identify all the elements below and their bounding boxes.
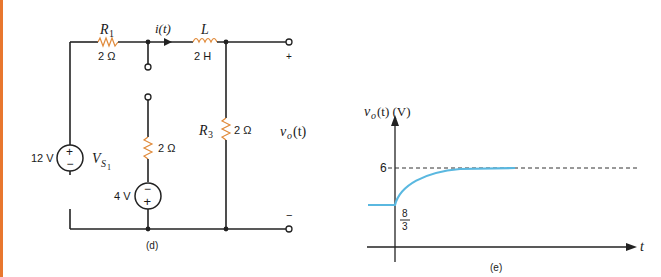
r1-sub: 1 (109, 28, 114, 39)
source-12v-value: 12 V (31, 152, 54, 164)
current-arrow-icon (164, 38, 172, 46)
source-4v-value: 4 V (114, 190, 131, 202)
current-label: i(t) (155, 21, 171, 36)
graph-final-value: 6 (380, 161, 387, 175)
resistor-middle-icon (144, 137, 152, 159)
graph-initial-num: 8 (402, 208, 408, 219)
r1-value: 2 Ω (98, 50, 115, 62)
output-v-sub: o (287, 130, 292, 141)
response-graph (367, 115, 638, 262)
vo-curve (368, 168, 515, 205)
switch-terminal-lower-icon (145, 94, 151, 100)
resistor-r1-icon (98, 38, 118, 46)
inductor-value: 2 H (194, 50, 211, 62)
output-plus-label: + (286, 51, 292, 62)
middle-resistor-value: 2 Ω (158, 142, 175, 154)
switch-terminal-upper-icon (145, 64, 151, 70)
r3-value: 2 Ω (234, 124, 251, 136)
source-12v-minus: − (67, 157, 74, 171)
inductor-icon (193, 39, 217, 43)
output-terminal-minus-icon (286, 226, 292, 232)
accent-bar (0, 0, 3, 277)
output-v: v (280, 124, 287, 139)
source-4v-plus: + (144, 194, 152, 209)
figure-canvas: − + + − 12 V V S 1 R 1 2 Ω i(t) L 2 H 2 … (0, 0, 661, 277)
circuit-caption: (d) (146, 240, 158, 251)
graph-ylabel-sub: o (371, 110, 376, 121)
graph-caption: (e) (490, 262, 502, 273)
output-terminal-plus-icon (286, 39, 292, 45)
r1-name: R (99, 22, 109, 37)
inductor-name: L (200, 22, 209, 37)
circuit-diagram: − + + − (57, 38, 292, 232)
graph-ylabel-rest: (t) (V) (377, 104, 411, 119)
r3-name: R (198, 123, 208, 138)
r3-sub: 3 (208, 129, 213, 140)
source-12v-sub: S (101, 158, 106, 169)
graph-ylabel-v: v (364, 104, 371, 119)
output-v-suffix: (t) (293, 124, 307, 140)
source-12v-subsub: 1 (107, 163, 111, 172)
x-axis-arrow-icon (626, 243, 637, 251)
graph-xlabel: t (640, 239, 645, 254)
resistor-r3-icon (222, 118, 230, 140)
output-minus-label: − (286, 209, 292, 221)
graph-initial-den: 3 (402, 221, 408, 232)
